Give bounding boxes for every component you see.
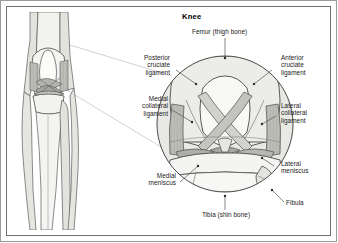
knee-anatomy-figure: Knee Femur (thigh bone) Posterior crucia… xyxy=(0,0,338,243)
label-femur: Femur (thigh bone) xyxy=(192,28,247,35)
label-lateral-meniscus: Lateral meniscus xyxy=(281,160,337,175)
label-fibula: Fibula xyxy=(286,199,304,206)
label-medial-collateral-ligament: Medial collateral ligament xyxy=(108,95,168,117)
label-lateral-collateral-ligament: Lateral collateral ligament xyxy=(281,102,337,124)
label-posterior-cruciate-ligament: Posterior cruciate ligament xyxy=(108,54,170,76)
label-anterior-cruciate-ligament: Anterior cruciate ligament xyxy=(281,54,337,76)
label-tibia: Tibia (shin bone) xyxy=(186,211,266,218)
figure-title: Knee xyxy=(182,12,201,21)
label-medial-meniscus: Medial meniscus xyxy=(118,172,176,187)
knee-joint-magnified-circle xyxy=(157,56,293,192)
